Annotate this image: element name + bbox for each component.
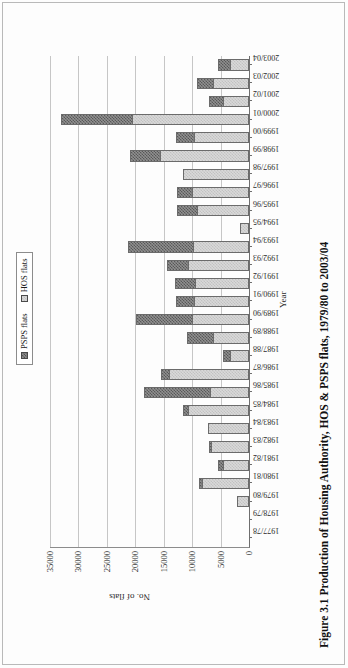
category-axis-tick bbox=[249, 301, 252, 302]
value-axis-tick-label: 10000 bbox=[187, 551, 197, 572]
scanned-page: PSPS flats HOS flats 0500010000150002000… bbox=[0, 0, 348, 668]
bar-segment-hos bbox=[132, 114, 249, 125]
bar-segment-psps bbox=[177, 205, 197, 216]
bar-segment-hos bbox=[211, 441, 249, 452]
category-axis-tick bbox=[249, 428, 252, 429]
bar-segment-psps bbox=[136, 314, 192, 325]
bar-stack bbox=[177, 187, 249, 198]
category-axis-tick-label: 1998/99 bbox=[253, 144, 279, 153]
bar-stack bbox=[197, 78, 249, 89]
bar-stack bbox=[237, 496, 249, 507]
rotated-chart: PSPS flats HOS flats 0500010000150002000… bbox=[12, 8, 292, 608]
bar-stack bbox=[167, 260, 249, 271]
bar-segment-hos bbox=[192, 314, 249, 325]
bar-stack bbox=[183, 169, 249, 180]
category-axis-tick bbox=[249, 282, 252, 283]
bar-segment-hos bbox=[237, 496, 249, 507]
category-axis-tick-label: 2001/02 bbox=[253, 89, 279, 98]
bar-segment-hos bbox=[193, 241, 249, 252]
bar-segment-hos bbox=[188, 260, 249, 271]
category-axis-tick-label: 1999/00 bbox=[253, 126, 279, 135]
category-axis-tick bbox=[249, 482, 252, 483]
bar-segment-hos bbox=[183, 169, 249, 180]
category-axis-tick-label: 1997/98 bbox=[253, 162, 279, 171]
value-axis-tick-label: 25000 bbox=[102, 551, 112, 572]
bar-segment-psps bbox=[175, 278, 195, 289]
category-axis-tick bbox=[249, 355, 252, 356]
bar-stack bbox=[208, 423, 250, 434]
bar-segment-psps bbox=[197, 78, 213, 89]
bar-segment-hos bbox=[195, 278, 249, 289]
legend-label-hos: HOS flats bbox=[20, 259, 29, 293]
category-axis-tick-label: 1987/88 bbox=[253, 344, 279, 353]
legend-swatch-hos-icon bbox=[21, 295, 28, 302]
category-axis-tick bbox=[249, 264, 252, 265]
category-axis-tick bbox=[249, 519, 252, 520]
bar-stack bbox=[176, 132, 249, 143]
category-axis-tick-label: 2002/03 bbox=[253, 71, 279, 80]
bar-stack bbox=[209, 96, 249, 107]
category-axis-tick bbox=[249, 119, 252, 120]
category-axis-tick-label: 1991/92 bbox=[253, 271, 279, 280]
category-axis-tick bbox=[249, 337, 252, 338]
bar-segment-psps bbox=[130, 150, 160, 161]
bar-segment-hos bbox=[202, 478, 249, 489]
bar-segment-psps bbox=[128, 241, 193, 252]
bar-segment-psps bbox=[61, 114, 132, 125]
bar-stack bbox=[240, 223, 249, 234]
category-axis-tick bbox=[249, 64, 252, 65]
category-axis-tick bbox=[249, 100, 252, 101]
category-axis-tick bbox=[249, 319, 252, 320]
category-axis-tick bbox=[249, 228, 252, 229]
bar-segment-psps bbox=[167, 260, 187, 271]
category-axis-tick-label: 1985/86 bbox=[253, 380, 279, 389]
bar-segment-hos bbox=[213, 78, 249, 89]
category-axis-tick-label: 1992/93 bbox=[253, 253, 279, 262]
bar-segment-hos bbox=[208, 423, 250, 434]
bar-segment-hos bbox=[194, 296, 249, 307]
bar-segment-hos bbox=[169, 369, 249, 380]
legend-item-hos: HOS flats bbox=[20, 259, 29, 303]
gridline bbox=[107, 56, 108, 547]
category-axis-tick-label: 1983/84 bbox=[253, 417, 279, 426]
plot-area: 050001000015000200002500030000350001977/… bbox=[50, 56, 250, 548]
bar-segment-hos bbox=[197, 205, 249, 216]
category-axis-tick-label: 1982/83 bbox=[253, 435, 279, 444]
category-axis-tick-label: 1994/95 bbox=[253, 217, 279, 226]
category-axis-tick-label: 1978/79 bbox=[253, 508, 279, 517]
category-axis-tick-label: 2003/04 bbox=[253, 53, 279, 62]
bar-stack bbox=[218, 460, 249, 471]
chart-legend: PSPS flats HOS flats bbox=[16, 252, 33, 365]
value-axis-tick-label: 15000 bbox=[159, 551, 169, 572]
gridline bbox=[50, 56, 51, 547]
bar-segment-hos bbox=[230, 350, 249, 361]
category-axis-tick bbox=[249, 246, 252, 247]
category-axis-tick bbox=[249, 391, 252, 392]
bar-segment-psps bbox=[177, 187, 192, 198]
bar-segment-hos bbox=[223, 96, 249, 107]
bar-segment-hos bbox=[223, 460, 249, 471]
legend-swatch-psps-icon bbox=[21, 352, 28, 359]
category-axis-tick bbox=[249, 137, 252, 138]
bar-segment-hos bbox=[160, 150, 249, 161]
bar-stack bbox=[130, 150, 249, 161]
value-axis-tick-label: 20000 bbox=[130, 551, 140, 572]
category-axis-tick bbox=[249, 155, 252, 156]
bar-segment-psps bbox=[144, 387, 209, 398]
bar-segment-hos bbox=[230, 59, 249, 70]
bar-stack bbox=[61, 114, 249, 125]
bar-stack bbox=[176, 296, 249, 307]
value-axis-tick-label: 30000 bbox=[73, 551, 83, 572]
bar-segment-psps bbox=[176, 132, 194, 143]
legend-label-psps: PSPS flats bbox=[20, 313, 29, 349]
bar-stack bbox=[187, 332, 249, 343]
bar-segment-psps bbox=[218, 59, 229, 70]
category-axis-tick bbox=[249, 191, 252, 192]
category-axis-tick-label: 1980/81 bbox=[253, 471, 279, 480]
bar-stack bbox=[218, 59, 249, 70]
gridline bbox=[135, 56, 136, 547]
category-axis-tick bbox=[249, 373, 252, 374]
figure-caption: Figure 3.1 Production of Housing Authori… bbox=[318, 242, 330, 648]
legend-item-psps: PSPS flats bbox=[20, 313, 29, 359]
bar-stack bbox=[128, 241, 249, 252]
